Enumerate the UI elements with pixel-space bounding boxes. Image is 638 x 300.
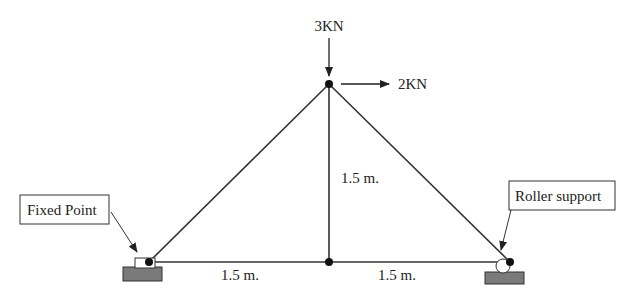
truss-diagram: 3KN 2KN 1.5 m. 1.5 m. 1.5 m. Fixed Point… <box>0 0 638 300</box>
dimension-bottom-right: 1.5 m. <box>378 267 416 283</box>
callout-fixed-point: Fixed Point <box>20 195 137 252</box>
node-left <box>145 258 153 266</box>
load-vertical: 3KN <box>314 18 343 76</box>
callout-fixed-point-label: Fixed Point <box>27 202 97 218</box>
callout-roller-support: Roller support <box>501 181 615 250</box>
roller-support-base <box>485 272 524 284</box>
dimension-vertical: 1.5 m. <box>341 170 379 186</box>
truss-members <box>149 84 510 262</box>
member-left-diagonal <box>149 84 329 262</box>
callout-roller-support-label: Roller support <box>515 188 602 204</box>
node-top <box>325 80 333 88</box>
node-bottom-middle <box>325 258 333 266</box>
dimension-bottom-left: 1.5 m. <box>221 267 259 283</box>
node-right <box>506 258 514 266</box>
load-horizontal-label: 2KN <box>398 76 427 92</box>
callout-pointer-arrow-icon <box>501 210 511 250</box>
fixed-support-base <box>123 267 162 281</box>
callout-pointer-arrow-icon <box>111 212 137 252</box>
load-horizontal: 2KN <box>341 76 427 92</box>
load-vertical-label: 3KN <box>314 18 343 34</box>
